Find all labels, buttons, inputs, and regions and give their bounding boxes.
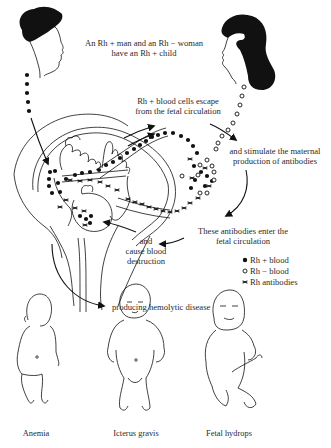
infant-fetal-hydrops-icon [205, 290, 262, 408]
legend-item-rh-negative: Rh − blood [250, 266, 298, 276]
legend-item-rh-positive: Rh + blood [250, 255, 298, 265]
parents-caption-line1: An Rh + man and an Rh − woman [72, 38, 216, 48]
disease-caption: producing hemolytic disease [112, 302, 210, 312]
arrow-to-disease [52, 244, 104, 306]
parents-caption: An Rh + man and an Rh − woman have an Rh… [72, 38, 216, 58]
destroy-caption: and cause blood destruction [120, 236, 172, 266]
stimulate-caption: and stimulate the maternal production of… [222, 146, 328, 166]
destroy-caption-line1: and [120, 236, 172, 246]
parents-caption-line2: have an Rh + child [72, 48, 216, 58]
mother-head-icon [221, 15, 275, 91]
outcome-anemia-label: Anemia [10, 429, 62, 439]
destroy-caption-line3: destruction [120, 256, 172, 266]
outcome-icterus-gravis-label: Icterus gravis [100, 429, 172, 439]
stimulate-caption-line2: production of antibodies [222, 156, 328, 166]
legend-label: Rh − blood [250, 266, 289, 276]
outcome-fetal-hydrops-label: Fetal hydrops [198, 429, 260, 439]
enter-caption-line2: fetal circulation [190, 236, 296, 246]
legend: Rh + blood Rh − blood Rh antibodies [250, 255, 298, 287]
father-rh-positive-dots [25, 73, 31, 113]
legend-label: Rh antibodies [250, 277, 298, 287]
father-head-icon [20, 7, 63, 78]
antibody-cross-icon [243, 281, 248, 283]
escape-caption: Rh + blood cells escape from the fetal c… [126, 96, 230, 116]
infant-anemia-icon [17, 294, 59, 403]
escape-caption-line1: Rh + blood cells escape [126, 96, 230, 106]
arrow-destruction [104, 222, 136, 232]
umbilical-channel [96, 128, 170, 218]
diagram-illustration [0, 0, 331, 448]
legend-label: Rh + blood [250, 255, 289, 265]
enter-caption: These antibodies enter the fetal circula… [190, 226, 296, 246]
stimulate-caption-line1: and stimulate the maternal [222, 146, 328, 156]
arrow-antibodies-to-fetus [226, 170, 247, 216]
filled-circle-icon [243, 258, 247, 262]
open-circle-icon [243, 269, 247, 273]
maternal-rh-negative-dots [180, 158, 216, 195]
enter-caption-line1: These antibodies enter the [190, 226, 296, 236]
arrow-father-to-fetus [31, 118, 48, 164]
legend-item-rh-antibodies: Rh antibodies [250, 277, 298, 287]
escape-caption-line2: from the fetal circulation [126, 106, 230, 116]
destroy-caption-line2: cause blood [120, 246, 172, 256]
mother-rh-negative-dots [214, 85, 246, 151]
uterus-outline [14, 114, 176, 312]
rh-disease-diagram: An Rh + man and an Rh − woman have an Rh… [0, 0, 331, 448]
legend-symbols [243, 258, 248, 283]
